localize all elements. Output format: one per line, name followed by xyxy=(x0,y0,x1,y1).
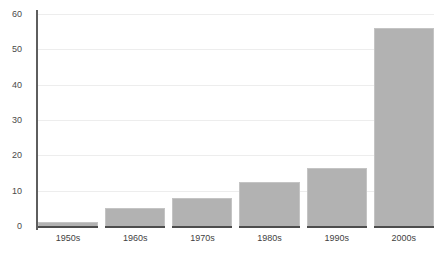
y-tick-label-20: 20 xyxy=(0,151,22,160)
x-tick-label-1990s: 1990s xyxy=(324,234,349,243)
bar-slot xyxy=(105,14,165,226)
x-tick-label-1980s: 1980s xyxy=(257,234,282,243)
x-axis-slot: 2000s xyxy=(374,226,434,243)
x-tick-label-2000s: 2000s xyxy=(392,234,417,243)
y-tick-label-40: 40 xyxy=(0,81,22,90)
x-tick-label-1960s: 1960s xyxy=(123,234,148,243)
y-tick-label-30: 30 xyxy=(0,116,22,125)
bar-2000s[interactable] xyxy=(374,28,434,226)
bar-1960s[interactable] xyxy=(105,208,165,226)
x-baseline-tick xyxy=(105,226,165,228)
bar-slot xyxy=(307,14,367,226)
y-tick-label-0: 0 xyxy=(0,222,22,231)
x-axis-slot: 1980s xyxy=(239,226,299,243)
bar-1990s[interactable] xyxy=(307,168,367,226)
x-axis-slot: 1960s xyxy=(105,226,165,243)
bar-slot xyxy=(239,14,299,226)
x-baseline-tick xyxy=(239,226,299,228)
bar-slot xyxy=(38,14,98,226)
y-tick-label-50: 50 xyxy=(0,45,22,54)
x-baseline-tick xyxy=(307,226,367,228)
x-baseline-tick xyxy=(172,226,232,228)
bar-1970s[interactable] xyxy=(172,198,232,226)
x-tick-label-1950s: 1950s xyxy=(56,234,81,243)
x-axis-slot: 1990s xyxy=(307,226,367,243)
x-baseline-tick xyxy=(38,226,98,228)
x-axis-container: 1950s1960s1970s1980s1990s2000s xyxy=(38,226,434,243)
x-axis-slot: 1950s xyxy=(38,226,98,243)
y-tick-label-60: 60 xyxy=(0,10,22,19)
y-tick-label-10: 10 xyxy=(0,187,22,196)
bars-container xyxy=(38,14,434,226)
x-tick-label-1970s: 1970s xyxy=(190,234,215,243)
bar-slot xyxy=(172,14,232,226)
bar-chart: 60 50 40 30 20 10 0 1950s1960s1970s1980s… xyxy=(0,0,442,257)
x-baseline-tick xyxy=(374,226,434,228)
bar-slot xyxy=(374,14,434,226)
x-axis-slot: 1970s xyxy=(172,226,232,243)
bar-1980s[interactable] xyxy=(239,182,299,226)
